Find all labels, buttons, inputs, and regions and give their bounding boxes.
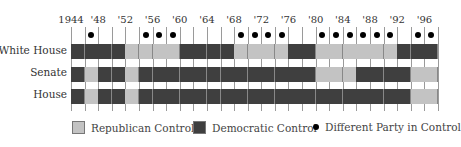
control-cell [193,67,207,82]
control-cell [98,89,112,104]
control-cell [207,89,221,104]
control-cell [397,89,411,104]
legend-divided: Different Party in Control [313,121,461,133]
control-cell [166,44,180,59]
control-cell [234,67,248,82]
control-cell [234,44,248,59]
control-cell [370,89,384,104]
control-cell [71,67,85,82]
control-cell [98,44,112,59]
control-cell [153,44,167,59]
tick-label: '48 [90,14,105,25]
legend-divided-label: Different Party in Control [325,121,461,133]
control-cell [343,89,357,104]
control-cell [261,67,275,82]
control-cell [356,44,370,59]
legend-democratic: Democratic Control [193,121,317,134]
tick-label: '84 [335,14,350,25]
divided-dot-icon [88,32,94,38]
tick-label: '96 [417,14,432,25]
divided-dot-icon [252,32,258,38]
control-cell [139,44,153,59]
dot-icon [313,124,319,130]
control-cell [112,44,126,59]
control-cell [384,44,398,59]
control-cell [248,89,262,104]
control-cell [112,89,126,104]
control-cell [125,67,139,82]
control-cell [180,44,194,59]
control-cell [248,67,262,82]
control-cell [153,67,167,82]
control-cell [166,67,180,82]
control-cell [424,67,438,82]
divided-dot-icon [347,32,353,38]
control-cell [85,67,99,82]
control-cell [384,89,398,104]
divided-dot-icon [238,32,244,38]
divided-dot-icon [156,32,162,38]
control-cell [411,67,425,82]
democratic-swatch-icon [193,121,206,134]
divided-dot-icon [428,32,434,38]
divided-dot-icon [319,32,325,38]
control-cell [153,89,167,104]
control-cell [125,89,139,104]
control-cell [302,89,316,104]
control-cell [384,67,398,82]
control-cell [302,67,316,82]
control-cell [288,67,302,82]
control-cell [370,44,384,59]
control-cell [180,89,194,104]
control-cell [288,44,302,59]
tick-label: '72 [254,14,269,25]
control-cell [329,67,343,82]
control-cell [275,89,289,104]
control-cell [316,44,330,59]
control-cell [207,44,221,59]
divided-dot-icon [265,32,271,38]
control-cell [112,67,126,82]
divided-dot-icon [333,32,339,38]
control-cell [221,89,235,104]
control-cell [98,67,112,82]
control-cell [288,89,302,104]
tick-label: '92 [389,14,404,25]
divided-dot-icon [415,32,421,38]
control-cell [343,67,357,82]
control-cell [329,44,343,59]
legend-republican-label: Republican Control [91,122,194,134]
divided-dot-icon [143,32,149,38]
control-cell [139,89,153,104]
control-cell [248,44,262,59]
divided-dot-icon [360,32,366,38]
control-cell [302,44,316,59]
control-cell [261,44,275,59]
control-cell [193,89,207,104]
control-cell [261,89,275,104]
control-cell [221,44,235,59]
control-cell [275,67,289,82]
tick-label: '60 [172,14,187,25]
control-cell [180,67,194,82]
control-cell [316,67,330,82]
control-cell [397,67,411,82]
control-cell [139,67,153,82]
divided-dot-icon [374,32,380,38]
row-label-white-house: White House [0,44,67,56]
row-label-senate: Senate [30,66,67,78]
control-cell [356,67,370,82]
tick-label: '52 [118,14,133,25]
legend-democratic-label: Democratic Control [212,122,317,134]
tick-label: '56 [145,14,160,25]
legend-republican: Republican Control [72,121,194,134]
control-cell [411,44,425,59]
control-cell [221,67,235,82]
control-cell [234,89,248,104]
control-cell [356,89,370,104]
control-cell [316,89,330,104]
tick-label: 1944 [58,14,83,25]
control-cell [85,44,99,59]
control-cell [275,44,289,59]
